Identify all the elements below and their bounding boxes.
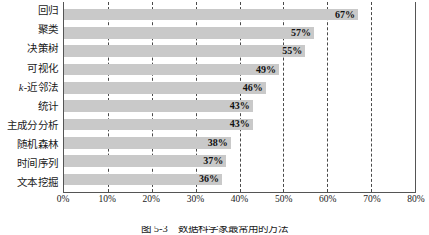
bar <box>64 155 226 167</box>
value-tick-label: 60% <box>319 195 336 205</box>
category-label-variable: k <box>19 83 24 94</box>
value-tick-label: 40% <box>231 195 248 205</box>
value-tick-label: 80% <box>407 195 424 205</box>
bar <box>64 45 305 57</box>
category-label: 聚类 <box>0 21 62 40</box>
bar-value-label: 57% <box>291 28 314 38</box>
category-label: 文本挖掘 <box>0 174 62 193</box>
bar-row: 38% <box>64 137 415 149</box>
value-tick-label: 50% <box>275 195 292 205</box>
bar-series: 67%57%55%49%46%43%43%38%37%36% <box>64 2 415 192</box>
value-tick-label: 20% <box>143 195 160 205</box>
bar-value-label: 38% <box>208 138 231 148</box>
category-axis: 回归聚类决策树可视化k-近邻法统计主成分分析随机森林时间序列文本挖掘 <box>0 2 62 193</box>
figure: 回归聚类决策树可视化k-近邻法统计主成分分析随机森林时间序列文本挖掘 67%57… <box>0 0 429 235</box>
bar-chart: 回归聚类决策树可视化k-近邻法统计主成分分析随机森林时间序列文本挖掘 67%57… <box>0 0 429 212</box>
category-label: 统计 <box>0 97 62 116</box>
bar-row: 43% <box>64 119 415 131</box>
figure-caption-clip: 图 5-3 数据科学家最常用的方法 <box>0 226 429 235</box>
category-label: 可视化 <box>0 59 62 78</box>
bar-value-label: 67% <box>335 10 358 20</box>
value-axis: 0%10%20%30%40%50%60%70%80% <box>63 195 416 209</box>
value-tick-label: 30% <box>187 195 204 205</box>
bar-value-label: 55% <box>282 46 305 56</box>
category-label: 随机森林 <box>0 136 62 155</box>
value-tick-label: 10% <box>98 195 115 205</box>
bar <box>64 137 231 149</box>
bar <box>64 27 314 39</box>
category-label: 主成分分析 <box>0 117 62 136</box>
category-label: k-近邻法 <box>0 78 62 97</box>
plot-area: 67%57%55%49%46%43%43%38%37%36% <box>63 2 416 193</box>
bar-value-label: 49% <box>256 65 279 75</box>
bar-value-label: 37% <box>203 156 226 166</box>
bar-row: 43% <box>64 100 415 112</box>
bar-value-label: 46% <box>243 83 266 93</box>
bar-value-label: 43% <box>230 119 253 129</box>
bar <box>64 82 266 94</box>
category-label: 回归 <box>0 2 62 21</box>
bar-row: 55% <box>64 45 415 57</box>
bar-row: 67% <box>64 9 415 21</box>
category-label: 决策树 <box>0 40 62 59</box>
bar-row: 46% <box>64 82 415 94</box>
bar <box>64 119 253 131</box>
value-tick-label: 70% <box>363 195 380 205</box>
bar <box>64 100 253 112</box>
value-tick-label: 0% <box>57 195 70 205</box>
bar-value-label: 36% <box>199 174 222 184</box>
bar-row: 57% <box>64 27 415 39</box>
figure-caption: 图 5-3 数据科学家最常用的方法 <box>0 226 429 235</box>
bar-row: 37% <box>64 155 415 167</box>
bar-value-label: 43% <box>230 101 253 111</box>
bar-row: 49% <box>64 64 415 76</box>
category-label: 时间序列 <box>0 155 62 174</box>
bar-row: 36% <box>64 174 415 186</box>
bar <box>64 9 358 21</box>
bar <box>64 64 279 76</box>
